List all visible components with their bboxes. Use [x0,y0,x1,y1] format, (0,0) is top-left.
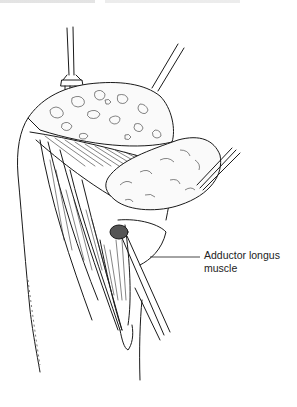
label-adductor-longus: Adductor longus muscle [204,249,280,274]
surgical-illustration: Adductor longus muscle [0,0,297,407]
anatomy-drawing [0,0,297,407]
fat-pad-top [28,83,174,147]
label-line-1: Adductor longus [204,249,280,262]
label-line-2: muscle [204,262,280,275]
retractor-left-icon [61,27,83,90]
retracted-tissue [106,138,221,210]
